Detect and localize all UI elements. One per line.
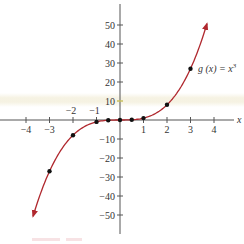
y-tick-label: 30 (105, 58, 115, 69)
caption-fragment (32, 238, 60, 241)
y-tick-label: 10 (105, 96, 115, 107)
data-point (130, 118, 134, 122)
x-tick-label: 4 (212, 124, 217, 135)
cubic-function-graph: −4−3−2−11234−50−40−30−20−101020304050 g … (0, 0, 244, 244)
y-tick-label: −30 (99, 172, 115, 183)
x-tick-label: 1 (141, 124, 146, 135)
data-point (47, 169, 51, 173)
y-tick-label: −10 (99, 134, 115, 145)
y-tick-label: −20 (99, 153, 115, 164)
data-point (141, 116, 145, 120)
x-tick-label: 2 (165, 124, 170, 135)
y-tick-label: 40 (105, 39, 115, 50)
function-label: g (x) = x3 (198, 62, 237, 75)
y-tick-label: −40 (99, 191, 115, 202)
caption-fragment (66, 238, 82, 241)
data-point (71, 133, 75, 137)
data-point (165, 103, 169, 107)
axes: −4−3−2−11234−50−40−30−20−101020304050 (0, 4, 234, 234)
data-point (106, 118, 110, 122)
x-tick-label: −4 (21, 124, 32, 135)
x-tick-label: −3 (44, 124, 55, 135)
x-tick-label: 3 (188, 124, 193, 135)
x-tick-label: −1 (89, 105, 100, 116)
x-tick-label: −2 (66, 105, 77, 116)
y-tick-label: 20 (105, 77, 115, 88)
data-point (118, 118, 122, 122)
labels: g (x) = x3 x (198, 62, 242, 125)
y-tick-label: 50 (105, 20, 115, 31)
data-point (188, 67, 192, 71)
x-axis-label: x (236, 114, 242, 125)
data-point (94, 120, 98, 124)
y-tick-label: −50 (99, 210, 115, 221)
